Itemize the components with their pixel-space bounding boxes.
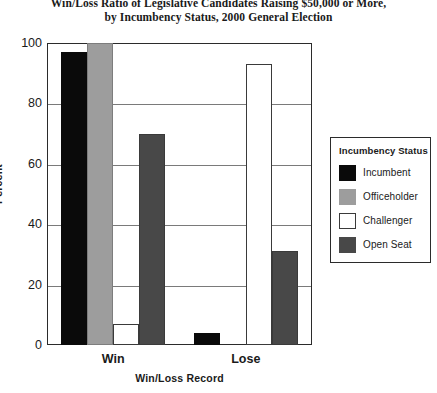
legend-swatch-challenger bbox=[339, 213, 356, 229]
gridline-40 bbox=[48, 225, 311, 226]
chart-title: Win/Loss Ratio of Legislative Candidates… bbox=[0, 0, 437, 24]
legend-title: Incumbency Status bbox=[339, 145, 422, 156]
legend-item: Challenger bbox=[339, 212, 422, 229]
gridline-20 bbox=[48, 286, 311, 287]
legend-swatch-incumbent bbox=[339, 165, 356, 181]
x-group-label-lose: Lose bbox=[206, 352, 286, 366]
y-tick-60: 60 bbox=[0, 158, 42, 171]
legend-label-officeholder: Officeholder bbox=[363, 191, 418, 202]
legend-swatch-open-seat bbox=[339, 237, 356, 253]
y-tick-0: 0 bbox=[0, 339, 42, 352]
legend-label-open-seat: Open Seat bbox=[363, 239, 412, 250]
legend-item: Open Seat bbox=[339, 236, 422, 253]
y-tick-40: 40 bbox=[0, 218, 42, 231]
legend-swatch-officeholder bbox=[339, 189, 356, 205]
legend-item: Incumbent bbox=[339, 164, 422, 181]
chart-title-line-1: Win/Loss Ratio of Legislative Candidates… bbox=[0, 0, 437, 10]
y-tick-80: 80 bbox=[0, 97, 42, 110]
gridline-60 bbox=[48, 165, 311, 166]
gridline-80 bbox=[48, 104, 311, 105]
plot-area bbox=[47, 43, 312, 345]
y-tick-100: 100 bbox=[0, 37, 42, 50]
legend-label-incumbent: Incumbent bbox=[363, 167, 411, 178]
x-group-label-win: Win bbox=[73, 352, 153, 366]
legend-label-challenger: Challenger bbox=[363, 215, 412, 226]
x-axis-title: Win/Loss Record bbox=[47, 372, 312, 384]
legend: Incumbency Status IncumbentOfficeholderC… bbox=[330, 137, 431, 263]
legend-entries: IncumbentOfficeholderChallengerOpen Seat bbox=[339, 164, 422, 253]
chart-title-line-2: by Incumbency Status, 2000 General Elect… bbox=[0, 10, 437, 24]
chart-container: Win/Loss Ratio of Legislative Candidates… bbox=[0, 0, 437, 393]
y-tick-20: 20 bbox=[0, 279, 42, 292]
legend-item: Officeholder bbox=[339, 188, 422, 205]
